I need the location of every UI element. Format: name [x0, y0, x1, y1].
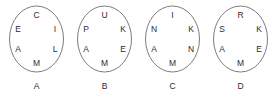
circle-a-letter-bottom: M [30, 58, 44, 68]
circle-group-a: C I L M A E A [2, 4, 71, 98]
circle-b-letter-bottom: M [98, 58, 112, 68]
circle-c-letter-lower-right: N [184, 44, 198, 54]
circle-d-letter-bottom: M [234, 58, 248, 68]
circle-b-letter-upper-left: P [79, 24, 93, 34]
circle-b-letter-lower-left: A [79, 44, 93, 54]
circle-label-c: C [138, 81, 207, 91]
circle-a-letter-top: C [30, 10, 44, 20]
circle-a-letter-upper-right: I [48, 24, 62, 34]
circle-label-d: D [206, 81, 275, 91]
circle-b-letter-top: U [98, 10, 112, 20]
circle-d-letter-top: R [234, 10, 248, 20]
circle-d-letter-upper-left: S [215, 24, 229, 34]
circle-c-letter-bottom: M [166, 58, 180, 68]
circle-c-letter-upper-right: K [184, 24, 198, 34]
circle-a-letter-lower-right: L [48, 44, 62, 54]
circle-d-letter-upper-right: K [252, 24, 266, 34]
circle-b-letter-upper-right: K [116, 24, 130, 34]
circle-group-d: R K E M A S D [206, 4, 275, 98]
circle-a-letter-lower-left: A [11, 44, 25, 54]
circle-c-letter-upper-left: N [147, 24, 161, 34]
circle-b-letter-lower-right: E [116, 44, 130, 54]
circle-label-b: B [70, 81, 139, 91]
circle-c-letter-top: I [166, 10, 180, 20]
circle-group-c: I K N M A N C [138, 4, 207, 98]
circle-d-letter-lower-right: E [252, 44, 266, 54]
lettered-circles-figure: C I L M A E A U K E M A P B I K N M A N [0, 0, 277, 98]
circle-label-a: A [2, 81, 71, 91]
circle-a-letter-upper-left: E [11, 24, 25, 34]
circle-c-letter-lower-left: A [147, 44, 161, 54]
circle-group-b: U K E M A P B [70, 4, 139, 98]
circle-d-letter-lower-left: A [215, 44, 229, 54]
